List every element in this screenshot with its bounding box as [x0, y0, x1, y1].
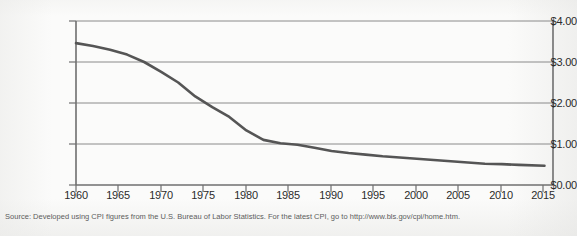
chart-plot-area: $4.00 $3.00 $2.00 $1.00 $0.00 1960 1965 …: [0, 0, 577, 205]
y-tick-label-1: $1.00: [523, 138, 577, 150]
x-tick-label-1985: 1985: [265, 189, 311, 201]
x-tick-label-1990: 1990: [308, 189, 354, 201]
x-tick-label-2005: 2005: [435, 189, 481, 201]
x-tick-label-1995: 1995: [350, 189, 396, 201]
x-tick-label-2015: 2015: [520, 189, 566, 201]
gridlines: [76, 21, 553, 144]
x-tick-label-2000: 2000: [393, 189, 439, 201]
y-tick-label-4: $4.00: [523, 15, 577, 27]
y-axis-ticks: [69, 21, 76, 185]
chart-svg: [0, 0, 577, 205]
y-tick-label-2: $2.00: [523, 97, 577, 109]
source-note: Source: Developed using CPI figures from…: [5, 212, 460, 221]
x-tick-label-1960: 1960: [53, 189, 99, 201]
x-tick-label-1980: 1980: [223, 189, 269, 201]
y-tick-label-3: $3.00: [523, 56, 577, 68]
x-tick-label-2010: 2010: [478, 189, 524, 201]
chart-figure: $4.00 $3.00 $2.00 $1.00 $0.00 1960 1965 …: [0, 0, 577, 236]
x-tick-label-1970: 1970: [138, 189, 184, 201]
x-tick-label-1965: 1965: [95, 189, 141, 201]
x-tick-label-1975: 1975: [180, 189, 226, 201]
